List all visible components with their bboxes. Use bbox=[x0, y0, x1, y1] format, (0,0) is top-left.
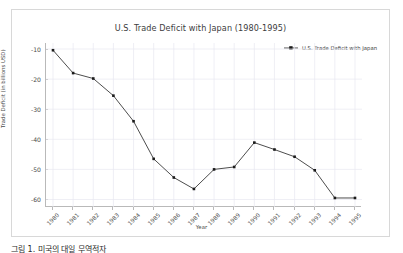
chart-title: U.S. Trade Deficit with Japan (1980-1995… bbox=[12, 23, 389, 33]
y-tick-label: -40 bbox=[31, 136, 41, 143]
x-tick-mark bbox=[334, 207, 335, 210]
y-tick-label: -30 bbox=[31, 106, 41, 113]
data-line bbox=[53, 50, 355, 198]
x-tick-mark bbox=[294, 207, 295, 210]
data-point-marker bbox=[112, 94, 115, 97]
data-point-marker bbox=[92, 77, 95, 80]
y-tick-label: -10 bbox=[31, 46, 41, 53]
x-tick-mark bbox=[92, 207, 93, 210]
x-tick-mark bbox=[52, 207, 53, 210]
data-point-marker bbox=[334, 197, 337, 200]
x-tick-mark bbox=[314, 207, 315, 210]
data-point-marker bbox=[213, 168, 216, 171]
x-tick-mark bbox=[213, 207, 214, 210]
screenshot-root: U.S. Trade Deficit with Japan (1980-1995… bbox=[0, 0, 403, 253]
x-tick-mark bbox=[273, 207, 274, 210]
data-point-marker bbox=[193, 188, 196, 191]
x-tick-mark bbox=[193, 207, 194, 210]
data-point-marker bbox=[52, 49, 55, 52]
line-chart-canvas bbox=[46, 43, 362, 207]
data-point-marker bbox=[313, 169, 316, 172]
y-axis-label: Trade Deficit (in billions USD) bbox=[0, 49, 6, 128]
x-tick-mark bbox=[153, 207, 154, 210]
data-point-marker bbox=[173, 176, 176, 179]
x-tick-mark bbox=[354, 207, 355, 210]
y-tick-label: -20 bbox=[31, 76, 41, 83]
chart-figure: U.S. Trade Deficit with Japan (1980-1995… bbox=[11, 9, 390, 237]
data-point-marker bbox=[293, 155, 296, 158]
x-axis-label: Year bbox=[12, 224, 391, 230]
data-point-marker bbox=[273, 148, 276, 151]
x-tick-mark bbox=[233, 207, 234, 210]
data-point-marker bbox=[132, 120, 135, 123]
x-tick-mark bbox=[72, 207, 73, 210]
data-point-marker bbox=[72, 72, 75, 75]
figure-caption: 그림 1. 미국의 대일 무역적자 bbox=[11, 245, 171, 253]
x-tick-mark bbox=[133, 207, 134, 210]
data-point-marker bbox=[354, 197, 357, 200]
plot-area bbox=[45, 43, 361, 207]
y-tick-label: -60 bbox=[31, 196, 41, 203]
data-point-marker bbox=[152, 158, 155, 161]
x-tick-mark bbox=[173, 207, 174, 210]
x-tick-mark bbox=[253, 207, 254, 210]
x-tick-mark bbox=[112, 207, 113, 210]
y-tick-label: -50 bbox=[31, 166, 41, 173]
data-point-marker bbox=[253, 141, 256, 144]
data-point-marker bbox=[233, 166, 236, 169]
y-axis-ticks: -10-20-30-40-50-60 bbox=[12, 43, 45, 207]
